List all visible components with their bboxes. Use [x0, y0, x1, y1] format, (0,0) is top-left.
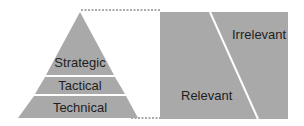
pyramid-label-strategic: Strategic [54, 55, 106, 70]
region-label-irrelevant: Irrelevant [232, 27, 287, 42]
diagram: Strategic Tactical Technical Irrelevant … [0, 0, 304, 126]
pyramid-label-technical: Technical [53, 100, 107, 115]
pyramid-label-tactical: Tactical [58, 78, 101, 93]
region-label-relevant: Relevant [181, 88, 233, 103]
relevance-panel: Irrelevant Relevant [160, 12, 288, 119]
pyramid: Strategic Tactical Technical [18, 12, 138, 118]
